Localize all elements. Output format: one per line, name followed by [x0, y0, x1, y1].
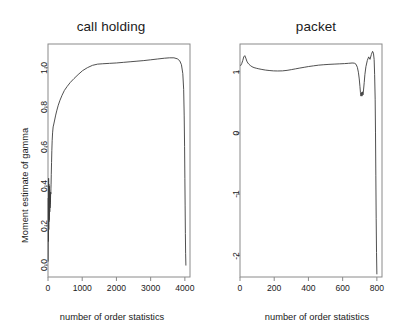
y-tick-label: 1 [231, 69, 241, 74]
y-tick-label-wrap: 0.0 [18, 260, 44, 270]
x-tick-label: 200 [267, 283, 281, 293]
x-tick-label: 2000 [107, 283, 126, 293]
data-line [241, 51, 377, 274]
y-tick-label-wrap: 1.0 [18, 63, 44, 73]
x-tick-label: 3000 [141, 283, 160, 293]
x-tick-label: 800 [370, 283, 384, 293]
x-axis-title: number of order statistics [209, 312, 417, 322]
figure-container: call holding number of order statistics … [0, 0, 417, 336]
x-axis-title: number of order statistics [0, 312, 208, 322]
plot-box [240, 44, 382, 277]
y-tick-label: 0.4 [39, 180, 49, 192]
x-tick-label: 0 [46, 283, 51, 293]
y-tick-label-wrap: -1 [210, 189, 236, 199]
y-tick-label-wrap: 0.8 [18, 102, 44, 112]
y-tick-label: 1.0 [39, 62, 49, 74]
y-tick-label: 0.2 [39, 220, 49, 232]
y-tick-label-wrap: 0.6 [18, 142, 44, 152]
x-tick-label: 4000 [175, 283, 194, 293]
y-tick-label-wrap: 1 [210, 67, 236, 77]
plot-box [48, 44, 190, 277]
x-tick-label: 400 [301, 283, 315, 293]
y-tick-label-wrap: -2 [210, 251, 236, 261]
y-tick-label-wrap: 0.4 [18, 181, 44, 191]
data-line [48, 58, 186, 265]
y-tick-label-wrap: 0.2 [18, 221, 44, 231]
y-tick-label: -2 [231, 252, 241, 260]
panel-call-holding: call holding number of order statistics … [0, 0, 208, 336]
x-tick-label: 1000 [73, 283, 92, 293]
panel-packet: packet number of order statistics Moment… [209, 0, 417, 336]
y-tick-label: -1 [231, 190, 241, 198]
y-tick-label: 0.8 [39, 101, 49, 113]
x-tick-label: 0 [238, 283, 243, 293]
y-tick-label: 0.6 [39, 141, 49, 153]
y-tick-label: 0 [231, 131, 241, 136]
x-tick-label: 600 [335, 283, 349, 293]
y-tick-label-wrap: 0 [210, 128, 236, 138]
y-tick-label: 0.0 [39, 259, 49, 271]
